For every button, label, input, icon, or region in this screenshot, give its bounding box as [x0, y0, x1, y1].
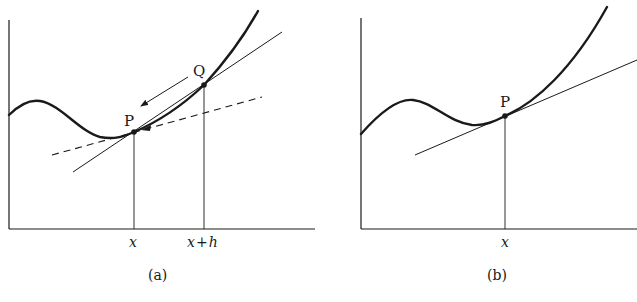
tick-label-x-b: x: [501, 234, 509, 250]
caption-a: (a): [148, 267, 167, 283]
tangent-dashed-a: [52, 97, 262, 155]
tick-label-xh-a: x+h: [187, 234, 218, 250]
label-p-a: P: [124, 112, 134, 130]
tick-label-x-a: x: [129, 234, 137, 250]
caption-b: (b): [487, 267, 507, 283]
point-p-b: [502, 113, 508, 119]
panel-b: P x (b): [361, 7, 637, 283]
secant-line-a: [73, 32, 282, 172]
derivative-diagram: P Q x x+h (a) P x (b): [0, 0, 637, 302]
label-q-a: Q: [193, 62, 205, 80]
point-q-a: [201, 82, 207, 88]
point-p-a: [131, 129, 137, 135]
tangent-line-b: [415, 60, 637, 155]
curve-b: [361, 7, 607, 134]
panel-a: P Q x x+h (a): [9, 11, 315, 283]
label-p-b: P: [500, 93, 510, 111]
approach-arrow-a: [141, 77, 188, 106]
